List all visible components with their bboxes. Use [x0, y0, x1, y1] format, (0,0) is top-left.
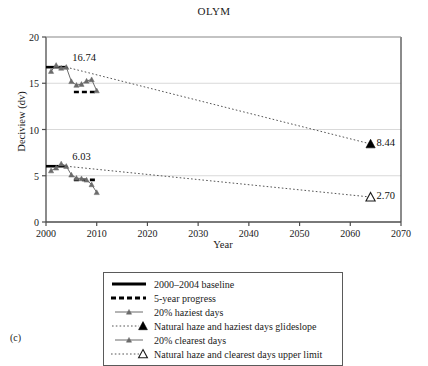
panel-label: (c) — [10, 332, 21, 343]
series-clearest-days — [51, 164, 97, 193]
legend-item-3: Natural haze and haziest days glideslope — [109, 319, 336, 333]
y-axis-title: Deciview (dv) — [16, 77, 27, 167]
y-tick-label: 20 — [8, 32, 39, 43]
x-tick-label: 2010 — [87, 228, 107, 239]
legend-item-2: 20% haziest days — [109, 305, 336, 319]
y-tick-label: 15 — [8, 78, 39, 89]
x-tick-label: 2060 — [340, 228, 360, 239]
legend-label: 20% haziest days — [154, 307, 223, 318]
chart-canvas — [0, 0, 428, 270]
marker-haziest-days — [89, 77, 94, 82]
endpoint-marker-glideslope-haziest — [366, 139, 375, 148]
x-tick-label: 2000 — [36, 228, 56, 239]
marker-haziest-days — [54, 63, 59, 68]
figure-panel: OLYM Deciview (dv) Year 0510152020002010… — [0, 0, 428, 366]
legend-swatch-line-marker-small-icon — [109, 305, 149, 319]
marker-clearest-days — [48, 168, 53, 173]
marker-haziest-days — [69, 79, 74, 84]
legend-item-1: 5-year progress — [109, 291, 336, 305]
chart-legend: 2000–2004 baseline5-year progress20% haz… — [103, 272, 343, 366]
marker-haziest-days — [94, 88, 99, 93]
legend-swatch-dashed-thick-icon — [109, 291, 149, 305]
legend-swatch-dotted-triangle-open-icon — [109, 347, 149, 361]
y-tick-label: 0 — [8, 217, 39, 228]
plot-area: Deciview (dv) Year 051015202000201020202… — [0, 0, 428, 270]
data-label-2-70: 2.70 — [377, 190, 395, 201]
y-tick-label: 10 — [8, 124, 39, 135]
data-label-8-44: 8.44 — [377, 137, 395, 148]
legend-swatch-solid-thick-icon — [109, 277, 149, 291]
marker-clearest-days — [94, 190, 99, 195]
x-tick-label: 2020 — [137, 228, 157, 239]
x-tick-label: 2040 — [239, 228, 259, 239]
legend-label: Natural haze and haziest days glideslope — [154, 321, 316, 332]
legend-label: Natural haze and clearest days upper lim… — [154, 349, 322, 360]
x-tick-label: 2070 — [391, 228, 411, 239]
data-label-6-03: 6.03 — [72, 151, 90, 162]
legend-item-4: 20% clearest days — [109, 333, 336, 347]
legend-item-5: Natural haze and clearest days upper lim… — [109, 347, 336, 361]
x-tick-label: 2030 — [188, 228, 208, 239]
marker-clearest-days — [69, 172, 74, 177]
legend-swatch-line-marker-small-icon — [109, 333, 149, 347]
series-glideslope-haziest — [66, 67, 370, 144]
y-tick-label: 5 — [8, 170, 39, 181]
legend-label: 5-year progress — [154, 293, 216, 304]
legend-item-0: 2000–2004 baseline — [109, 277, 336, 291]
marker-clearest-days — [59, 161, 64, 166]
marker-haziest-days — [79, 82, 84, 87]
x-tick-label: 2050 — [290, 228, 310, 239]
series-upper-limit-clearest — [66, 166, 370, 197]
endpoint-marker-upper-limit-clearest — [366, 192, 375, 201]
data-label-16-74: 16.74 — [72, 52, 96, 63]
x-axis-title: Year — [45, 239, 401, 250]
legend-label: 20% clearest days — [154, 335, 226, 346]
legend-label: 2000–2004 baseline — [154, 279, 234, 290]
legend-swatch-dotted-triangle-filled-icon — [109, 319, 149, 333]
